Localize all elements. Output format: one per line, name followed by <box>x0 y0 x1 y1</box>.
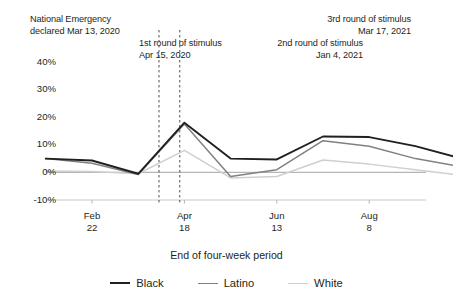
legend-label: Black <box>136 277 163 289</box>
legend-line-icon <box>288 283 308 284</box>
x-axis-tick-label: Apr18 <box>164 210 204 234</box>
legend-line-icon <box>110 282 130 284</box>
x-axis-tick-label: Aug8 <box>349 210 389 234</box>
y-axis-tick-label: 30% <box>22 83 56 94</box>
x-axis-tick-label: Jun13 <box>257 210 297 234</box>
y-axis-tick-label: 20% <box>22 111 56 122</box>
annotation-stimulus-round-1: 1st round of stimulus Apr 15, 2020 <box>139 38 222 61</box>
legend-item-black[interactable]: Black <box>110 277 163 289</box>
x-axis-title: End of four-week period <box>0 249 453 261</box>
legend-label: Latino <box>224 277 254 289</box>
chart-legend: BlackLatinoWhite <box>0 277 453 289</box>
annotation-national-emergency: National Emergency declared Mar 13, 2020 <box>30 14 120 37</box>
legend-label: White <box>314 277 343 289</box>
annotation-stimulus-round-2: 2nd round of stimulus Jan 4, 2021 <box>255 38 363 61</box>
x-axis-tick-label: Feb22 <box>72 210 112 234</box>
y-axis-tick-label: 0% <box>22 166 56 177</box>
legend-item-latino[interactable]: Latino <box>198 277 254 289</box>
y-axis-tick-label: -10% <box>22 194 56 205</box>
annotation-stimulus-round-3: 3rd round of stimulus Mar 17, 2021 <box>300 14 411 37</box>
legend-line-icon <box>198 283 218 284</box>
x-axis-tick-label: Oct3 <box>442 210 453 234</box>
y-axis-tick-label: 40% <box>22 56 56 67</box>
chart-root: National Emergency declared Mar 13, 2020… <box>0 0 453 304</box>
y-axis-tick-label: 10% <box>22 138 56 149</box>
legend-item-white[interactable]: White <box>288 277 343 289</box>
